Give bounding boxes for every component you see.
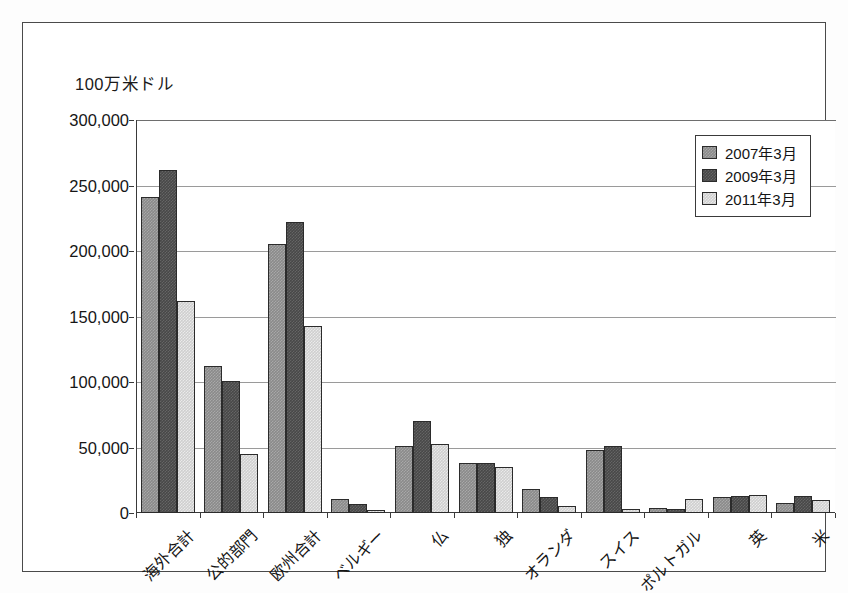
- x-axis-tick-mark: [644, 513, 645, 518]
- x-axis-tick-mark: [517, 513, 518, 518]
- bar: [522, 489, 540, 513]
- y-axis-tick-mark: [129, 120, 134, 121]
- bar: [331, 499, 349, 513]
- bar: [222, 381, 240, 513]
- x-axis-category-label: 英: [742, 523, 770, 551]
- bar-group: [586, 120, 640, 513]
- bar-group: [268, 120, 322, 513]
- bar: [622, 509, 640, 513]
- bar: [540, 497, 558, 513]
- bar: [395, 446, 413, 513]
- legend-swatch: [702, 146, 717, 159]
- x-axis-category-label: 欧州合計: [264, 523, 326, 585]
- bar: [204, 366, 222, 513]
- bar: [794, 496, 812, 513]
- bar: [477, 463, 495, 513]
- y-axis-tick-mark: [129, 513, 134, 514]
- bar: [558, 506, 576, 513]
- bar-group: [204, 120, 258, 513]
- bar: [459, 463, 477, 513]
- chart-legend: 2007年3月2009年3月2011年3月: [695, 135, 811, 217]
- legend-item: 2007年3月: [702, 141, 804, 164]
- x-axis-tick-mark: [581, 513, 582, 518]
- y-axis-tick-mark: [129, 317, 134, 318]
- x-axis-tick-mark: [263, 513, 264, 518]
- bar: [141, 197, 159, 513]
- x-axis-tick-mark: [390, 513, 391, 518]
- legend-swatch: [702, 192, 717, 205]
- y-axis-tick-label: 200,000: [43, 242, 129, 261]
- bar-group: [331, 120, 385, 513]
- bar: [349, 504, 367, 513]
- bar: [413, 421, 431, 513]
- bar: [268, 244, 286, 513]
- y-axis-tick-mark: [129, 382, 134, 383]
- bar: [159, 170, 177, 513]
- bar: [685, 499, 703, 513]
- legend-label: 2009年3月: [725, 165, 797, 186]
- x-axis-category-label: 独: [488, 523, 516, 551]
- legend-item: 2009年3月: [702, 164, 804, 187]
- y-axis-tick-label: 50,000: [43, 438, 129, 457]
- figure-frame: 100万米ドル 050,000100,000150,000200,000250,…: [22, 22, 826, 572]
- bar: [286, 222, 304, 513]
- legend-label: 2011年3月: [725, 188, 796, 209]
- y-axis-tick-mark: [129, 251, 134, 252]
- bar-group: [395, 120, 449, 513]
- bar: [713, 497, 731, 513]
- bar: [431, 444, 449, 513]
- x-axis-category-label: 海外合計: [137, 523, 199, 585]
- x-axis-tick-mark: [835, 513, 836, 518]
- x-axis-category-label: 仏: [425, 523, 453, 551]
- x-axis-tick-mark: [136, 513, 137, 518]
- bar: [812, 500, 830, 513]
- y-axis-tick-mark: [129, 186, 134, 187]
- chart-figure: 100万米ドル 050,000100,000150,000200,000250,…: [0, 0, 848, 593]
- y-axis-tick-mark: [129, 448, 134, 449]
- x-axis-tick-mark: [200, 513, 201, 518]
- x-axis-category-label: ベルギー: [327, 523, 389, 585]
- y-axis-tick-label: 150,000: [43, 307, 129, 326]
- x-axis-tick-mark: [327, 513, 328, 518]
- legend-label: 2007年3月: [725, 142, 797, 163]
- bar: [240, 454, 258, 513]
- bar: [495, 467, 513, 513]
- bar: [776, 503, 794, 513]
- bar-group: [141, 120, 195, 513]
- x-axis-tick-mark: [454, 513, 455, 518]
- bar: [731, 496, 749, 513]
- bar: [749, 495, 767, 513]
- y-axis-tick-labels: 050,000100,000150,000200,000250,000300,0…: [41, 120, 129, 513]
- x-axis-tick-mark: [708, 513, 709, 518]
- bar: [304, 326, 322, 513]
- bar: [586, 450, 604, 513]
- x-axis-category-label: オランダ: [518, 523, 580, 585]
- y-axis-tick-label: 250,000: [43, 176, 129, 195]
- bar: [604, 446, 622, 513]
- bar: [667, 509, 685, 513]
- bar: [177, 301, 195, 513]
- y-axis-unit-caption: 100万米ドル: [75, 71, 174, 95]
- bar: [649, 508, 667, 513]
- legend-item: 2011年3月: [702, 187, 804, 210]
- x-axis-category-label: 米: [806, 523, 834, 551]
- x-axis-category-label: 公的部門: [200, 523, 262, 585]
- bar-group: [522, 120, 576, 513]
- x-axis-tick-mark: [771, 513, 772, 518]
- y-axis-tick-label: 100,000: [43, 373, 129, 392]
- bar-group: [459, 120, 513, 513]
- y-axis-tick-label: 300,000: [43, 111, 129, 130]
- bar: [367, 510, 385, 513]
- legend-swatch: [702, 169, 717, 182]
- y-axis-tick-label: 0: [43, 504, 129, 523]
- x-axis-category-label: ポルトガル: [634, 523, 708, 593]
- x-axis-category-label: スイス: [593, 523, 644, 574]
